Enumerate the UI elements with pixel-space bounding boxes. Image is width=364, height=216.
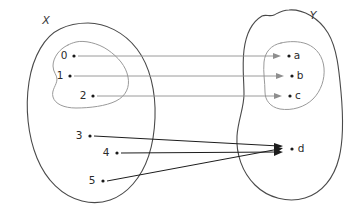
element-d: d bbox=[290, 142, 304, 154]
element-dot-c bbox=[288, 94, 291, 97]
element-dot-0 bbox=[72, 54, 75, 57]
element-a: a bbox=[287, 49, 300, 61]
element-label-c: c bbox=[295, 89, 301, 101]
element-4: 4 bbox=[103, 146, 119, 158]
element-label-2: 2 bbox=[80, 89, 87, 101]
element-dot-3 bbox=[88, 134, 91, 137]
element-label-b: b bbox=[297, 69, 304, 81]
element-3: 3 bbox=[76, 129, 92, 141]
element-dot-1 bbox=[68, 74, 71, 77]
set-label-x: X bbox=[41, 14, 50, 27]
mapping-arrow-1-b bbox=[74, 73, 284, 79]
element-1: 1 bbox=[57, 69, 72, 81]
element-label-a: a bbox=[294, 49, 300, 61]
element-label-0: 0 bbox=[61, 49, 68, 61]
mapping-canvas: X Y 0 1 2 3 4 5 a bbox=[0, 0, 364, 216]
element-c: c bbox=[288, 89, 301, 101]
set-y-outline bbox=[237, 10, 343, 200]
mapping-arrow-0-a bbox=[78, 53, 281, 59]
element-b: b bbox=[290, 69, 303, 81]
element-2: 2 bbox=[80, 89, 95, 101]
element-dot-a bbox=[287, 54, 290, 57]
element-dot-2 bbox=[91, 94, 94, 97]
element-dot-d bbox=[290, 147, 293, 150]
element-label-d: d bbox=[298, 142, 305, 154]
element-label-4: 4 bbox=[103, 146, 110, 158]
element-dot-5 bbox=[101, 179, 104, 182]
element-5: 5 bbox=[89, 174, 105, 186]
element-label-5: 5 bbox=[89, 174, 96, 186]
set-mapping-diagram: X Y 0 1 2 3 4 5 a bbox=[0, 0, 364, 216]
element-dot-4 bbox=[115, 151, 118, 154]
mapping-arrow-3-d bbox=[94, 136, 283, 150]
element-label-1: 1 bbox=[57, 69, 64, 81]
element-label-3: 3 bbox=[76, 129, 83, 141]
element-dot-b bbox=[290, 74, 293, 77]
element-0: 0 bbox=[61, 49, 76, 61]
